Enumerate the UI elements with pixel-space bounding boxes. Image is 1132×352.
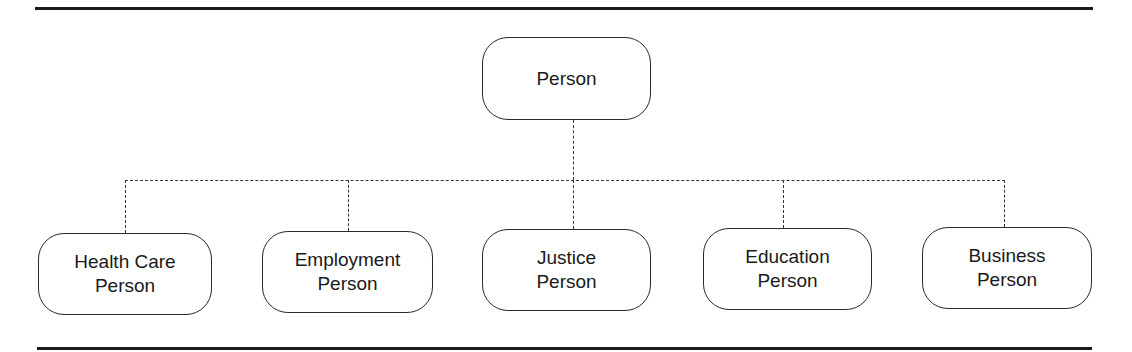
node-label-line1: Health Care	[74, 250, 175, 274]
root-connector	[573, 120, 574, 180]
connector-health-care	[125, 180, 126, 233]
node-label-line2: Person	[95, 274, 155, 298]
bottom-rule	[37, 347, 1092, 350]
node-label: Person	[536, 67, 596, 91]
node-label-line2: Person	[977, 268, 1037, 292]
node-label-line1: Justice	[537, 246, 596, 270]
node-label-line1: Employment	[295, 248, 401, 272]
node-health-care-person: Health Care Person	[38, 233, 212, 315]
node-label-line2: Person	[317, 272, 377, 296]
connector-employment	[348, 180, 349, 231]
connector-justice	[573, 180, 574, 229]
top-rule	[35, 7, 1093, 10]
node-label-line1: Education	[745, 245, 830, 269]
node-business-person: Business Person	[922, 227, 1092, 309]
node-label-line2: Person	[757, 269, 817, 293]
node-label-line2: Person	[536, 270, 596, 294]
connector-business	[1004, 180, 1005, 227]
node-person-root: Person	[482, 37, 651, 120]
node-label-line1: Business	[968, 244, 1045, 268]
sibling-bus-connector	[125, 180, 1005, 181]
node-employment-person: Employment Person	[262, 231, 433, 313]
node-education-person: Education Person	[703, 228, 872, 310]
node-justice-person: Justice Person	[482, 229, 651, 311]
connector-education	[783, 180, 784, 228]
